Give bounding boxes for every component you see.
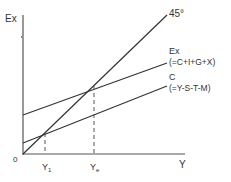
ex-formula: (=C+I+G+X) bbox=[169, 57, 215, 67]
line-ex bbox=[23, 63, 167, 115]
y1-label: Y1 bbox=[42, 162, 52, 173]
c-formula: (=Y-S-T-M) bbox=[169, 83, 211, 93]
keynesian-cross-diagram: Ex Y 0 45° Ex (=C+I+G+X) C (=Y-S-T-M) Y1… bbox=[0, 0, 231, 182]
ye-label: Ye bbox=[90, 162, 100, 173]
y-axis-label: Ex bbox=[5, 13, 17, 24]
x-axis-label: Y bbox=[179, 159, 186, 170]
ex-label: Ex bbox=[169, 46, 180, 56]
line-45-label: 45° bbox=[169, 8, 184, 19]
c-label: C bbox=[169, 72, 176, 82]
origin-label: 0 bbox=[13, 155, 18, 164]
